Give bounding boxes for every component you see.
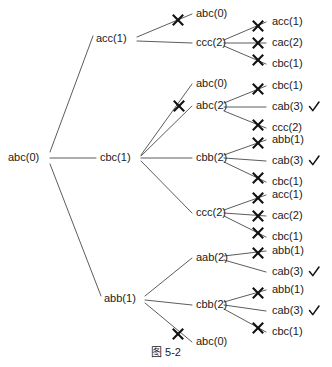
tree-node-l3-7: cab(3) (272, 154, 303, 166)
figure-caption: 图 5-2 (151, 346, 181, 358)
edge-acc1-abc0 (137, 14, 192, 37)
checkmark-abc2-cab3 (310, 102, 320, 111)
tree-node-l3-14: abb(1) (272, 283, 304, 295)
tree-node-l3-4: cab(3) (272, 100, 303, 112)
tree-node-l3-8: cbc(1) (272, 175, 303, 187)
xmark-acc1-abc0 (173, 15, 183, 25)
tree-node-l2-1: ccc(2) (196, 36, 226, 48)
xmark-aab2-abb1 (253, 248, 263, 258)
tree-node-l3-13: cab(3) (272, 265, 303, 277)
pruned-markers-group (173, 15, 263, 339)
tree-node-l3-2: cbc(1) (272, 57, 303, 69)
tree-node-l2-7: cbb(2) (196, 298, 227, 310)
tree-node-l3-0: acc(1) (272, 15, 303, 27)
edge-root-abb1 (50, 164, 101, 296)
edge-cbb2a-cab3 (224, 158, 266, 161)
xmark-ccc2a-cbc1 (253, 55, 263, 65)
tree-node-l3-3: cbc(1) (272, 79, 303, 91)
tree-node-l3-10: cac(2) (272, 209, 303, 221)
tree-node-l3-5: ccc(2) (272, 121, 302, 133)
checkmark-cbb2a-cab3 (310, 156, 320, 165)
xmark-abc2-cbc1 (253, 84, 263, 94)
checkmark-cbb2b-cab3 (310, 306, 320, 315)
tree-node-l3-1: cac(2) (272, 36, 303, 48)
xmark-ccc2a-acc1 (253, 21, 263, 31)
tree-node-l1-1: cbc(1) (100, 151, 131, 163)
edge-abb1-aab2 (145, 258, 192, 296)
tree-node-l1-0: acc(1) (96, 32, 127, 44)
tree-node-l2-6: aab(2) (196, 251, 228, 263)
tree-node-l3-16: cbc(1) (272, 325, 303, 337)
edge-aab2-cab3 (224, 260, 266, 272)
edge-cbc1-abc0 (141, 84, 192, 155)
tree-node-l2-3: abc(2) (196, 99, 227, 111)
xmark-abc2-ccc2 (253, 120, 263, 130)
xmark-ccc2b-cbc1 (253, 228, 263, 238)
tree-node-l3-6: abb(1) (272, 133, 304, 145)
tree-node-l2-8: abc(0) (196, 335, 227, 347)
edge-cbc1-abc2 (141, 106, 192, 156)
edge-abb1-abc0 (145, 303, 192, 342)
edge-root-acc1 (50, 36, 93, 152)
edge-abb1-cbb2 (145, 300, 192, 305)
search-tree-figure: abc(0)acc(1)cbc(1)abb(1)abc(0)ccc(2)abc(… (0, 0, 332, 367)
accepted-markers-group (310, 102, 320, 315)
tree-node-l2-4: cbb(2) (196, 151, 227, 163)
edge-cbc1-ccc2 (141, 161, 192, 213)
tree-node-l2-5: ccc(2) (196, 206, 226, 218)
tree-node-root: abc(0) (8, 151, 39, 163)
xmark-cbb2b-cbc1 (253, 323, 263, 333)
edge-acc1-ccc2 (137, 41, 192, 43)
xmark-cbb2a-abb1 (253, 138, 263, 148)
xmark-ccc2b-acc1 (253, 193, 263, 203)
tree-node-l3-9: acc(1) (272, 188, 303, 200)
tree-node-l3-15: cab(3) (272, 304, 303, 316)
checkmark-aab2-cab3 (310, 267, 320, 276)
tree-node-l3-11: cbc(1) (272, 230, 303, 242)
tree-node-l2-2: abc(0) (196, 77, 227, 89)
tree-edges-group (50, 14, 266, 342)
tree-node-l3-12: abb(1) (272, 244, 304, 256)
xmark-cbb2a-cbc1 (253, 173, 263, 183)
tree-node-l1-2: abb(1) (104, 292, 136, 304)
edge-cbb2b-cab3 (224, 305, 266, 311)
tree-node-l2-0: abc(0) (196, 7, 227, 19)
